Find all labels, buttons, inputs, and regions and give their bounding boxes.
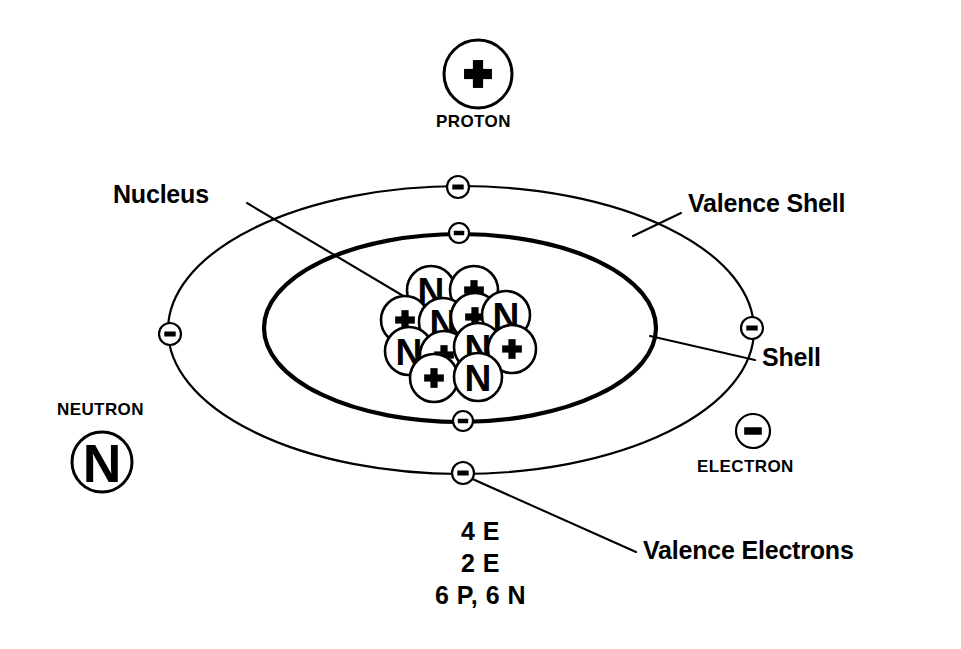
proton-legend-plus-icon-v (473, 60, 483, 88)
callout-label-valence-shell: Valence Shell (688, 191, 845, 216)
callout-label-nucleus: Nucleus (113, 182, 209, 207)
neutron-legend-n-icon: N (83, 434, 122, 493)
inner-shell-electron-2-minus-glyph (458, 419, 468, 423)
atom-diagram-canvas: NNNNNNN PROTON NEUTRON ELECTRON Nucleus … (0, 0, 961, 649)
proton-legend-label: PROTON (436, 113, 511, 130)
neutron-legend-label: NEUTRON (57, 401, 144, 418)
valence-electron-2-minus-glyph (164, 332, 175, 337)
config-line-1: 4 E (0, 519, 961, 544)
leader-line-shell (650, 336, 755, 360)
valence-electron-3-minus-glyph (746, 326, 757, 331)
nucleus-proton-6-glyph-v (430, 368, 437, 388)
electron-legend-label: ELECTRON (697, 458, 794, 475)
nucleus-neutron-6-glyph: N (465, 357, 492, 399)
inner-shell-electron-1-minus-glyph (454, 231, 464, 235)
electron-configuration-stack: 4 E2 E6 P, 6 N (0, 519, 961, 608)
config-line-3: 6 P, 6 N (0, 583, 961, 608)
config-line-2: 2 E (0, 551, 961, 576)
valence-electron-1-minus-glyph (452, 185, 463, 190)
valence-electron-4-minus-glyph (457, 471, 468, 476)
nucleus-proton-5-glyph-v (508, 339, 515, 359)
electron-legend-circle-minus-glyph (744, 427, 762, 434)
callout-label-shell: Shell (762, 345, 821, 370)
